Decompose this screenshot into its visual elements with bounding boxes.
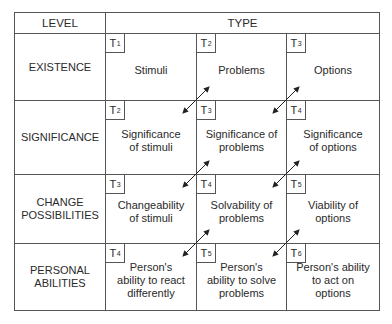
cell-significance-problems: T3 Significance of problems	[196, 100, 287, 175]
t-label: T3	[286, 33, 306, 53]
cell-ability-solve: T5 Person's ability to solve problems	[196, 243, 287, 311]
level-personal-abilities: PERSONAL ABILITIES	[14, 243, 106, 311]
cell-text: Person's ability to act on options	[296, 255, 370, 300]
level-change-possibilities: CHANGE POSSIBILITIES	[14, 174, 106, 244]
t-label: T6	[286, 243, 306, 263]
t-label: T2	[105, 100, 125, 120]
cell-text: Solvability of problems	[207, 193, 277, 225]
cell-text: Significance of stimuli	[116, 122, 186, 154]
cell-ability-react: T4 Person's ability to react differently	[105, 243, 197, 311]
cell-viability-options: T5 Viability of options	[286, 174, 380, 244]
cell-text: Significance of problems	[204, 122, 279, 154]
t-label: T5	[196, 243, 216, 263]
cell-stimuli: T1 Stimuli	[105, 33, 197, 101]
header-level: LEVEL	[14, 12, 106, 34]
t-label: T4	[196, 174, 216, 194]
level-significance: SIGNIFICANCE	[14, 100, 106, 175]
cell-ability-act: T6 Person's ability to act on options	[286, 243, 380, 311]
header-type: TYPE	[105, 12, 380, 34]
t-label: T1	[105, 33, 125, 53]
t-label: T3	[196, 100, 216, 120]
cell-changeability-stimuli: T3 Changeability of stimuli	[105, 174, 197, 244]
cell-text: Options	[314, 58, 352, 77]
cell-text: Problems	[218, 58, 264, 77]
cell-text: Significance of options	[298, 122, 368, 154]
cell-text: Person's ability to solve problems	[206, 255, 278, 300]
t-label: T4	[286, 100, 306, 120]
cell-problems: T2 Problems	[196, 33, 287, 101]
cell-text: Person's ability to react differently	[115, 255, 187, 300]
t-label: T2	[196, 33, 216, 53]
cell-text: Viability of options	[303, 193, 363, 225]
t-label: T4	[105, 243, 125, 263]
diagram-table: LEVEL TYPE EXISTENCE T1 Stimuli T2 Probl…	[14, 12, 380, 311]
cell-text: Stimuli	[134, 58, 167, 77]
cell-significance-options: T4 Significance of options	[286, 100, 380, 175]
cell-significance-stimuli: T2 Significance of stimuli	[105, 100, 197, 175]
level-existence: EXISTENCE	[14, 33, 106, 101]
t-label: T5	[286, 174, 306, 194]
t-label: T3	[105, 174, 125, 194]
cell-text: Changeability of stimuli	[114, 193, 189, 225]
cell-solvability-problems: T4 Solvability of problems	[196, 174, 287, 244]
cell-options: T3 Options	[286, 33, 380, 101]
